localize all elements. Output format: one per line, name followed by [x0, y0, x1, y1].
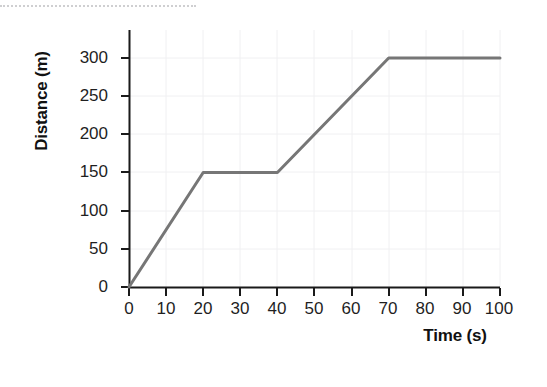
x-axis-ticks	[129, 288, 500, 296]
plot-area	[0, 0, 547, 387]
distance-time-graph-figure: Distance (m) Time (s) 300 250 200 150 10…	[0, 0, 547, 387]
y-axis-ticks	[121, 58, 129, 287]
grid-lines-vertical	[129, 30, 500, 287]
